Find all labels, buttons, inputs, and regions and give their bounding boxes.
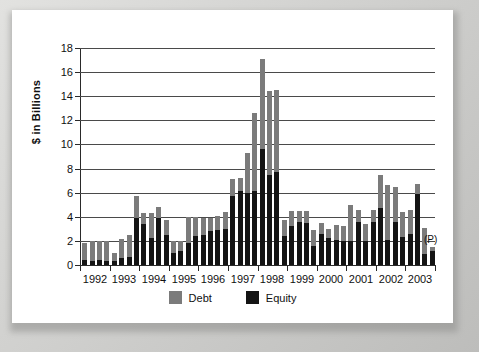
bar-segment-debt: [156, 207, 161, 218]
bar-segment-equity: [260, 149, 265, 265]
bar-segment-debt: [400, 212, 405, 237]
bar-segment-debt: [356, 210, 361, 222]
bar-segment-equity: [422, 254, 427, 265]
bar-segment-equity: [171, 253, 176, 265]
y-tick-label: 16: [61, 66, 73, 78]
bar: [171, 241, 176, 265]
photo-frame: $ in Billions 024681012141618 1992199319…: [0, 0, 479, 352]
legend-label: Debt: [189, 292, 212, 304]
y-tick-label: 0: [67, 259, 73, 271]
bar-segment-debt: [127, 235, 132, 257]
bar-segment-equity: [193, 236, 198, 265]
bar-segment-debt: [112, 253, 117, 261]
bar: [156, 207, 161, 265]
bar: [289, 211, 294, 265]
bar-segment-equity: [385, 240, 390, 265]
legend-item: Equity: [246, 291, 297, 304]
bar-segment-equity: [363, 241, 368, 265]
bar-segment-equity: [371, 222, 376, 265]
x-tick-label: 1996: [201, 273, 225, 285]
bar-segment-debt: [245, 153, 250, 193]
bar-segment-debt: [341, 226, 346, 240]
x-tick-mark: [228, 265, 229, 271]
bar: [304, 211, 309, 265]
bar: [223, 212, 228, 265]
bar-segment-equity: [348, 241, 353, 265]
bar-segment-debt: [311, 230, 316, 246]
bar-segment-equity: [215, 230, 220, 265]
bar-segment-equity: [326, 238, 331, 265]
bar-segment-equity: [149, 238, 154, 265]
legend-item: Debt: [169, 291, 212, 304]
bar-segment-debt: [149, 213, 154, 238]
bar: [356, 210, 361, 265]
x-tick-label: 1997: [231, 273, 255, 285]
x-tick-label: 1993: [112, 273, 136, 285]
bar-segment-equity: [201, 235, 206, 265]
bar-segment-equity: [230, 196, 235, 265]
x-tick-mark: [139, 265, 140, 271]
bar-segment-equity: [90, 261, 95, 265]
x-tick-label: 2000: [319, 273, 343, 285]
bar: [385, 185, 390, 265]
bar-segment-debt: [201, 218, 206, 235]
bar: [371, 210, 376, 265]
x-tick-mark: [317, 265, 318, 271]
bar-segment-equity: [97, 260, 102, 265]
x-tick-label: 1999: [290, 273, 314, 285]
bar: [267, 91, 272, 265]
bar: [141, 213, 146, 265]
bar-segment-debt: [408, 210, 413, 234]
x-tick-mark: [435, 265, 436, 271]
bar: [208, 218, 213, 265]
bar-segment-equity: [378, 208, 383, 265]
bar: [341, 226, 346, 265]
y-tick-label: 12: [61, 114, 73, 126]
bar: [230, 179, 235, 265]
bar-segment-equity: [134, 218, 139, 265]
bar-segment-equity: [82, 260, 87, 265]
bar: [274, 90, 279, 265]
bar-segment-equity: [252, 191, 257, 265]
x-tick-mark: [80, 265, 81, 271]
bar: [260, 59, 265, 265]
bar-segment-equity: [341, 241, 346, 265]
bar-segment-debt: [334, 225, 339, 239]
bar-segment-equity: [267, 175, 272, 265]
bar-segment-debt: [297, 211, 302, 222]
x-tick-label: 1992: [83, 273, 107, 285]
bar-segment-equity: [400, 237, 405, 265]
bar: [378, 175, 383, 265]
x-tick-mark: [110, 265, 111, 271]
bar-segment-debt: [208, 218, 213, 231]
bar: [112, 253, 117, 265]
x-tick-mark: [198, 265, 199, 271]
bar-segment-debt: [393, 187, 398, 222]
bar-segment-debt: [363, 224, 368, 241]
bar: [348, 205, 353, 265]
bar-segment-equity: [127, 257, 132, 265]
bar-segment-debt: [104, 241, 109, 261]
bar: [311, 230, 316, 265]
bar-segment-debt: [223, 212, 228, 229]
bar-segment-equity: [141, 224, 146, 265]
bar-segment-equity: [164, 235, 169, 265]
bar-segment-debt: [230, 179, 235, 196]
bar: [164, 220, 169, 265]
plot-area: 024681012141618 199219931994199519961997…: [80, 48, 435, 265]
bar-segment-equity: [319, 234, 324, 265]
bar-segment-debt: [267, 91, 272, 174]
bar-segment-debt: [238, 178, 243, 191]
bar: [415, 184, 420, 265]
bar-segment-equity: [415, 194, 420, 265]
x-tick-mark: [346, 265, 347, 271]
bar: [97, 241, 102, 265]
chart-panel: $ in Billions 024681012141618 1992199319…: [12, 10, 453, 323]
bar: [119, 239, 124, 266]
bar: [178, 241, 183, 265]
bar: [400, 212, 405, 265]
bar-segment-debt: [348, 205, 353, 241]
bar-segment-debt: [193, 217, 198, 236]
bar-segment-debt: [178, 241, 183, 251]
bar-segment-equity: [238, 191, 243, 265]
